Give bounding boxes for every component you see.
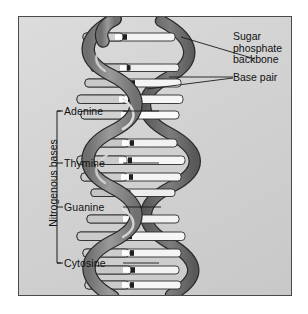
illustration-frame: Nitrogenous bases Adenine Thymine Guanin… [18, 16, 292, 296]
base-label-adenine: Adenine [64, 105, 103, 117]
base-label-cytosine: Cytosine [64, 257, 106, 269]
base-label-guanine: Guanine [64, 201, 104, 213]
callout-base-pair: Base pair [233, 72, 277, 84]
callout-line: backbone [233, 54, 282, 66]
callout-line: Sugar [233, 31, 282, 43]
nitrogenous-bases-group-label: Nitrogenous bases [47, 128, 59, 238]
callout-sugar-phosphate-backbone: Sugar phosphate backbone [233, 31, 282, 66]
dna-diagram-figure: Nitrogenous bases Adenine Thymine Guanin… [0, 0, 308, 314]
base-label-thymine: Thymine [64, 157, 105, 169]
